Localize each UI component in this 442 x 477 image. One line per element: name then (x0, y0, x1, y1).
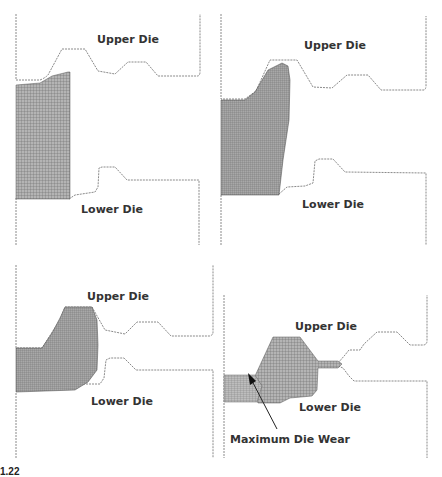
upper-die-outline (221, 14, 426, 99)
maximum-die-wear-annotation: Maximum Die Wear (230, 433, 351, 446)
panel-stage-1: Upper Die Lower Die (16, 14, 200, 245)
workpiece-mesh (221, 63, 290, 195)
upper-die-label: Upper Die (304, 39, 366, 52)
panel-stage-2: Upper Die Lower Die (221, 14, 426, 245)
panel-stage-4: Upper Die Lower Die Maximum Die Wear (224, 295, 427, 458)
figure-caption-number: 1.22 (0, 466, 20, 477)
workpiece-mesh (255, 337, 342, 403)
upper-die-outline (16, 265, 213, 348)
lower-die-label: Lower Die (302, 198, 364, 211)
upper-die-label: Upper Die (97, 33, 159, 46)
workpiece-mesh (16, 307, 98, 392)
lower-die-label: Lower Die (91, 395, 153, 408)
upper-die-label: Upper Die (87, 290, 149, 303)
upper-die-outline (16, 14, 200, 80)
workpiece-mesh (16, 72, 70, 199)
panel-stage-3: Upper Die Lower Die (16, 265, 213, 458)
lower-die-label: Lower Die (81, 203, 143, 216)
upper-die-label: Upper Die (295, 320, 357, 333)
lower-die-label: Lower Die (299, 401, 361, 414)
forging-stages-figure: Upper Die Lower Die Upper Die Lower Die … (0, 0, 442, 477)
